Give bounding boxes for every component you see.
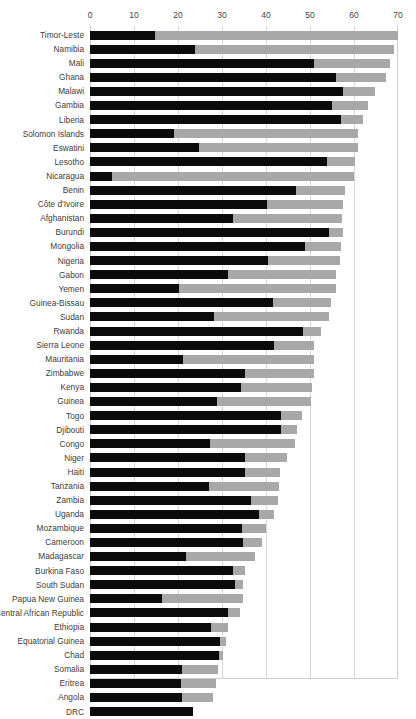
bar-segment-1 xyxy=(90,580,235,589)
bar-row: DRC xyxy=(0,705,416,719)
bar-row: Mozambique xyxy=(0,521,416,535)
category-label: Zimbabwe xyxy=(0,366,84,380)
bar-segment-1 xyxy=(90,228,329,237)
x-tick-label-60: 60 xyxy=(349,10,358,21)
x-axis-top: 010203040506070 xyxy=(0,10,416,26)
bar-segment-1 xyxy=(90,510,259,519)
bar-segment-1 xyxy=(90,327,303,336)
bar xyxy=(90,637,226,646)
bar-row: Niger xyxy=(0,451,416,465)
category-label: Malawi xyxy=(0,84,84,98)
category-label: Equatorial Guinea xyxy=(0,634,84,648)
bar-segment-1 xyxy=(90,101,332,110)
bar xyxy=(90,101,368,110)
bar-row: Somalia xyxy=(0,662,416,676)
bar-row: Papua New Guinea xyxy=(0,592,416,606)
bar xyxy=(90,228,343,237)
bar-segment-1 xyxy=(90,594,162,603)
bar-row: Mauritania xyxy=(0,352,416,366)
x-tick-label-50: 50 xyxy=(305,10,314,21)
bar-segment-1 xyxy=(90,383,241,392)
bar-segment-1 xyxy=(90,566,233,575)
category-label: Gambia xyxy=(0,98,84,112)
category-label: Gabon xyxy=(0,268,84,282)
bar-segment-1 xyxy=(90,453,245,462)
category-label: DRC xyxy=(0,705,84,719)
bar xyxy=(90,651,223,660)
bar xyxy=(90,45,394,54)
bar-row: Guinea xyxy=(0,394,416,408)
bar-segment-1 xyxy=(90,45,195,54)
bar xyxy=(90,510,274,519)
bar-row: Burkina Faso xyxy=(0,564,416,578)
bar-row: Tanzania xyxy=(0,479,416,493)
category-label: Eritrea xyxy=(0,676,84,690)
bar-row: Togo xyxy=(0,409,416,423)
category-label: Mozambique xyxy=(0,521,84,535)
bar xyxy=(90,707,193,716)
bar-segment-1 xyxy=(90,214,233,223)
bar xyxy=(90,594,243,603)
bar-row: Liberia xyxy=(0,113,416,127)
bar-segment-1 xyxy=(90,270,228,279)
category-label: Lesotho xyxy=(0,155,84,169)
bar xyxy=(90,425,297,434)
bar-row: Timor-Leste xyxy=(0,28,416,42)
bar xyxy=(90,87,375,96)
bar xyxy=(90,143,358,152)
bar-row: Burundi xyxy=(0,225,416,239)
bar-row: Ethiopia xyxy=(0,620,416,634)
bar-row: Rwanda xyxy=(0,324,416,338)
bar-row: Nicaragua xyxy=(0,169,416,183)
bar-row: Equatorial Guinea xyxy=(0,634,416,648)
bar-segment-1 xyxy=(90,679,181,688)
bar xyxy=(90,242,341,251)
bar-segment-1 xyxy=(90,651,219,660)
bar xyxy=(90,552,255,561)
bar xyxy=(90,608,240,617)
bar-segment-1 xyxy=(90,411,281,420)
bar-row: Angola xyxy=(0,690,416,704)
bar xyxy=(90,298,331,307)
bar-row: Ghana xyxy=(0,70,416,84)
category-label: Mali xyxy=(0,56,84,70)
bar-row: Central African Republic xyxy=(0,606,416,620)
x-tick-label-30: 30 xyxy=(217,10,226,21)
category-label: Afghanistan xyxy=(0,211,84,225)
bar-segment-1 xyxy=(90,341,274,350)
bar-segment-1 xyxy=(90,242,305,251)
x-tick-label-10: 10 xyxy=(129,10,138,21)
bar xyxy=(90,623,228,632)
bar-row: Guinea-Bissau xyxy=(0,296,416,310)
category-label: Congo xyxy=(0,437,84,451)
x-tick-label-70: 70 xyxy=(393,10,402,21)
bar-segment-1 xyxy=(90,524,242,533)
bar xyxy=(90,355,314,364)
bar-segment-1 xyxy=(90,143,199,152)
bar-row: Haiti xyxy=(0,465,416,479)
bar-segment-1 xyxy=(90,623,211,632)
category-label: Mauritania xyxy=(0,352,84,366)
category-label: Eswatini xyxy=(0,141,84,155)
bar-segment-1 xyxy=(90,468,245,477)
bar-row: Benin xyxy=(0,183,416,197)
bar xyxy=(90,157,355,166)
bar-segment-1 xyxy=(90,608,228,617)
bar-row: Eritrea xyxy=(0,676,416,690)
bar-segment-1 xyxy=(90,172,112,181)
category-label: Central African Republic xyxy=(0,606,84,620)
category-label: Nicaragua xyxy=(0,169,84,183)
bar-row: Mali xyxy=(0,56,416,70)
category-label: Kenya xyxy=(0,380,84,394)
bar-segment-1 xyxy=(90,707,193,716)
category-label: Mongolia xyxy=(0,239,84,253)
bar xyxy=(90,538,262,547)
category-label: Angola xyxy=(0,690,84,704)
category-label: Liberia xyxy=(0,113,84,127)
category-label: Nigeria xyxy=(0,254,84,268)
bar-row: Zimbabwe xyxy=(0,366,416,380)
bar-row: Sierra Leone xyxy=(0,338,416,352)
bar-row: Chad xyxy=(0,648,416,662)
bar xyxy=(90,679,216,688)
bar xyxy=(90,453,287,462)
